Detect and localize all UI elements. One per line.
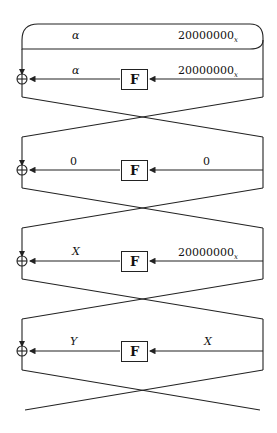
round2-f-input: 0 xyxy=(203,155,210,168)
round1-f-output: α xyxy=(72,64,79,77)
round4-f-input: X xyxy=(204,335,212,348)
round3-f-input: 20000000x xyxy=(178,246,238,261)
round1-f-input: 20000000x xyxy=(178,64,238,79)
round3-f-output: X xyxy=(72,245,80,258)
input-left-label: α xyxy=(72,29,79,42)
input-right-label: 20000000x xyxy=(178,29,238,44)
round2-f-box: F xyxy=(121,160,148,181)
round1-f-box: F xyxy=(121,69,148,90)
round3-f-box: F xyxy=(121,251,148,272)
round2-f-output: 0 xyxy=(70,155,77,168)
xor-icon xyxy=(17,74,27,356)
round4-f-output: Y xyxy=(70,335,77,348)
round4-f-box: F xyxy=(121,341,148,362)
